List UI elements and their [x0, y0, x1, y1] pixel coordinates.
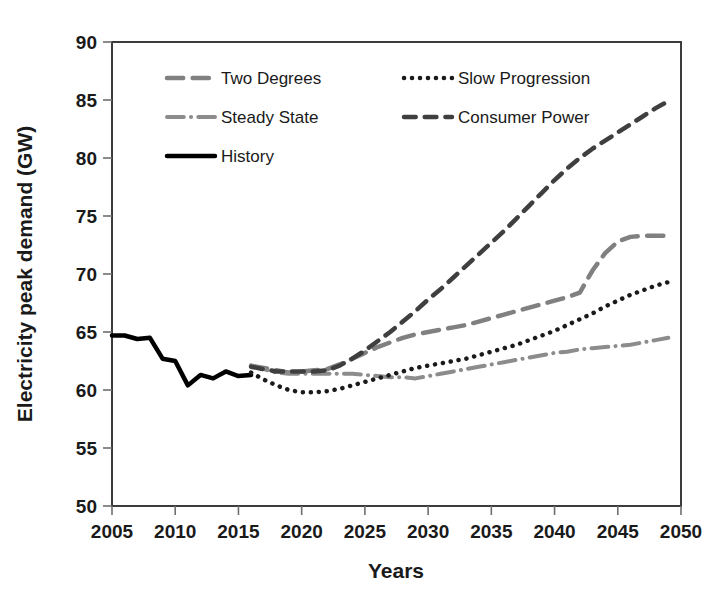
x-tick-label: 2020 — [281, 521, 323, 542]
x-tick-label: 2050 — [660, 521, 702, 542]
data-series-group — [112, 101, 668, 392]
legend-label: Slow Progression — [458, 69, 590, 88]
chart-container: 505560657075808590 200520102015202020252… — [0, 0, 726, 599]
series-line — [251, 101, 668, 371]
y-axis-ticks: 505560657075808590 — [76, 32, 112, 517]
x-axis-ticks: 2005201020152020202520302035204020452050 — [91, 506, 702, 542]
series-line — [251, 282, 668, 392]
legend-label: Consumer Power — [458, 108, 590, 127]
legend-label: History — [221, 147, 274, 166]
y-tick-label: 50 — [76, 496, 97, 517]
y-axis-title: Electricity peak demand (GW) — [13, 126, 36, 422]
x-tick-label: 2005 — [91, 521, 134, 542]
x-tick-label: 2030 — [407, 521, 449, 542]
legend-label: Two Degrees — [221, 69, 321, 88]
x-tick-label: 2010 — [154, 521, 196, 542]
y-tick-label: 80 — [76, 148, 97, 169]
x-tick-label: 2015 — [217, 521, 260, 542]
chart-legend: Two DegreesSlow ProgressionSteady StateC… — [167, 69, 590, 166]
x-axis-title: Years — [368, 559, 424, 582]
y-tick-label: 65 — [76, 322, 98, 343]
y-tick-label: 60 — [76, 380, 97, 401]
x-tick-label: 2035 — [470, 521, 513, 542]
y-tick-label: 75 — [76, 206, 98, 227]
y-tick-label: 85 — [76, 90, 98, 111]
series-line — [112, 335, 251, 385]
x-tick-label: 2045 — [597, 521, 640, 542]
y-tick-label: 70 — [76, 264, 97, 285]
plot-frame — [112, 42, 681, 506]
x-tick-label: 2040 — [533, 521, 575, 542]
x-tick-label: 2025 — [344, 521, 387, 542]
y-tick-label: 55 — [76, 438, 98, 459]
legend-label: Steady State — [221, 108, 318, 127]
y-tick-label: 90 — [76, 32, 97, 53]
line-chart: 505560657075808590 200520102015202020252… — [0, 0, 726, 599]
